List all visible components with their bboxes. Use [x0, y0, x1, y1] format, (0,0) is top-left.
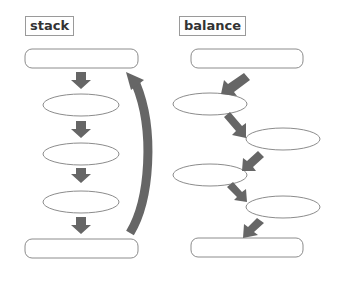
diagonal-arrow-icon	[242, 151, 264, 171]
down-arrow-icon	[71, 121, 91, 138]
curved-return-arrow-icon	[130, 84, 148, 233]
stack-node-2	[43, 143, 119, 165]
stack-node-3	[43, 191, 119, 213]
balance-node-3	[173, 164, 247, 186]
diagonal-arrow-icon	[221, 73, 250, 96]
down-arrow-icon	[71, 217, 91, 234]
balance-node-1	[173, 93, 247, 115]
down-arrow-icon	[71, 72, 91, 89]
diagram-canvas	[0, 0, 341, 284]
balance-node-2	[246, 128, 320, 150]
balance-bottom-node	[191, 238, 303, 257]
diagonal-arrow-icon	[224, 112, 246, 138]
diagonal-arrow-icon	[243, 218, 264, 238]
balance-top-node	[191, 49, 303, 68]
stack-node-1	[43, 94, 119, 116]
stack-bottom-node	[25, 239, 138, 258]
stack-top-node	[25, 49, 138, 68]
balance-node-4	[246, 196, 320, 218]
diagonal-arrow-icon	[227, 182, 247, 202]
down-arrow-icon	[71, 168, 91, 183]
